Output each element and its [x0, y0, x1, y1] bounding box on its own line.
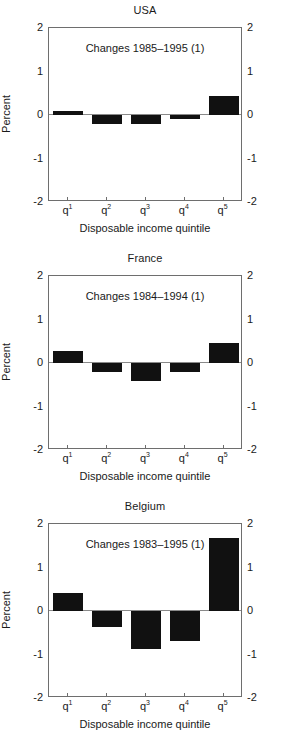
panel-annotation: Changes 1985–1995 (1) [49, 42, 241, 55]
y-tick-label-right: 2 [247, 22, 277, 33]
chart-panel-usa: USAPercent221100-1-1-2-2Changes 1985–199… [0, 0, 290, 248]
x-tick-label-superscript: 2 [107, 699, 111, 706]
x-tick-label-q1: q1 [62, 452, 72, 464]
panel-annotation: Changes 1984–1994 (1) [49, 290, 241, 303]
y-tick-label-left: 2 [13, 518, 43, 529]
y-tick-label-left: -2 [13, 196, 43, 207]
x-tick-mark [67, 197, 68, 201]
x-tick-mark [223, 693, 224, 697]
x-tick-label-superscript: 5 [224, 699, 228, 706]
bar-q1 [53, 111, 83, 115]
y-tick-label-right: 0 [247, 357, 277, 368]
figure-three-panel-bar-chart: USAPercent221100-1-1-2-2Changes 1985–199… [0, 0, 290, 746]
bar-q5 [209, 343, 239, 363]
y-axis-label: Percent [0, 95, 12, 133]
y-tick-label-left: 0 [13, 357, 43, 368]
x-tick-label-q2: q2 [101, 700, 111, 712]
x-tick-label-superscript: 1 [69, 699, 73, 706]
x-tick-mark [106, 445, 107, 449]
x-tick-label-q2: q2 [101, 204, 111, 216]
x-tick-label-q3: q3 [140, 204, 150, 216]
x-tick-mark [145, 693, 146, 697]
y-tick-label-left: 1 [13, 313, 43, 324]
y-tick-label-right: 1 [247, 65, 277, 76]
bar-q1 [53, 351, 83, 363]
x-tick-label-superscript: 1 [69, 203, 73, 210]
x-tick-label-superscript: 3 [146, 203, 150, 210]
x-tick-label-superscript: 2 [107, 451, 111, 458]
y-tick-label-left: -1 [13, 152, 43, 163]
y-tick-label-right: 2 [247, 270, 277, 281]
y-tick-label-left: -2 [13, 444, 43, 455]
x-axis-label: Disposable income quintile [0, 718, 290, 731]
x-tick-label-superscript: 4 [185, 203, 189, 210]
x-tick-mark [223, 197, 224, 201]
bar-q4 [170, 611, 200, 641]
bar-q2 [92, 115, 122, 124]
x-tick-label-q2: q2 [101, 452, 111, 464]
plot-area: Changes 1984–1994 (1) [48, 275, 242, 449]
bar-q2 [92, 363, 122, 372]
x-tick-mark [67, 445, 68, 449]
x-tick-label-q4: q4 [179, 452, 189, 464]
x-tick-label-q3: q3 [140, 452, 150, 464]
x-tick-mark [184, 693, 185, 697]
y-tick-label-right: 0 [247, 109, 277, 120]
y-tick-label-right: -2 [247, 692, 277, 703]
y-tick-label-right: 1 [247, 561, 277, 572]
y-tick-label-left: 1 [13, 65, 43, 76]
bar-q5 [209, 538, 239, 611]
y-tick-label-right: -2 [247, 196, 277, 207]
y-tick-label-left: 1 [13, 561, 43, 572]
x-tick-mark [106, 693, 107, 697]
y-tick-label-left: -2 [13, 692, 43, 703]
x-tick-label-q5: q5 [218, 452, 228, 464]
chart-panel-belgium: BelgiumPercent221100-1-1-2-2Changes 1983… [0, 496, 290, 744]
x-tick-label-superscript: 1 [69, 451, 73, 458]
y-axis-label: Percent [0, 591, 12, 629]
plot-area: Changes 1985–1995 (1) [48, 27, 242, 201]
bar-q4 [170, 363, 200, 372]
y-axis-label: Percent [0, 343, 12, 381]
x-tick-label-q4: q4 [179, 700, 189, 712]
y-tick-label-left: -1 [13, 648, 43, 659]
x-tick-label-superscript: 3 [146, 451, 150, 458]
x-tick-label-q5: q5 [218, 204, 228, 216]
x-tick-label-q1: q1 [62, 204, 72, 216]
chart-panel-france: FrancePercent221100-1-1-2-2Changes 1984–… [0, 248, 290, 496]
plot-area: Changes 1983–1995 (1) [48, 523, 242, 697]
x-tick-label-superscript: 3 [146, 699, 150, 706]
bar-q3 [131, 611, 161, 649]
y-tick-label-left: 2 [13, 270, 43, 281]
x-tick-label-superscript: 4 [185, 699, 189, 706]
y-tick-label-right: 2 [247, 518, 277, 529]
panel-title: USA [0, 4, 290, 17]
x-tick-label-superscript: 4 [185, 451, 189, 458]
x-tick-mark [223, 445, 224, 449]
panel-title: Belgium [0, 500, 290, 513]
y-tick-label-left: -1 [13, 400, 43, 411]
y-tick-label-right: -1 [247, 648, 277, 659]
x-tick-mark [145, 197, 146, 201]
y-tick-label-right: 1 [247, 313, 277, 324]
bar-q3 [131, 115, 161, 124]
x-axis-label: Disposable income quintile [0, 222, 290, 235]
x-tick-mark [67, 693, 68, 697]
x-axis-label: Disposable income quintile [0, 470, 290, 483]
y-tick-label-right: 0 [247, 605, 277, 616]
x-tick-label-superscript: 5 [224, 451, 228, 458]
x-tick-mark [106, 197, 107, 201]
bar-q2 [92, 611, 122, 627]
y-tick-label-left: 0 [13, 605, 43, 616]
y-tick-label-right: -2 [247, 444, 277, 455]
bar-q3 [131, 363, 161, 381]
bar-q5 [209, 96, 239, 115]
x-tick-mark [145, 445, 146, 449]
x-tick-label-superscript: 5 [224, 203, 228, 210]
x-tick-mark [184, 197, 185, 201]
y-tick-label-right: -1 [247, 400, 277, 411]
y-tick-label-left: 2 [13, 22, 43, 33]
x-tick-label-q5: q5 [218, 700, 228, 712]
x-tick-label-q1: q1 [62, 700, 72, 712]
x-tick-label-superscript: 2 [107, 203, 111, 210]
